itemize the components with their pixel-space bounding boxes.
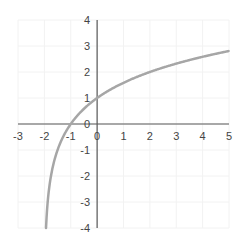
- y-tick-label: 1: [84, 92, 90, 104]
- y-tick-label: 0: [84, 118, 90, 130]
- x-tick-label: 1: [120, 130, 126, 142]
- x-tick-labels: -3-2-1012345: [13, 130, 232, 142]
- x-tick-label: -2: [39, 130, 49, 142]
- y-tick-label: -3: [80, 196, 90, 208]
- y-tick-label: -4: [80, 222, 90, 234]
- x-tick-label: 3: [173, 130, 179, 142]
- x-tick-label: 4: [200, 130, 206, 142]
- x-tick-label: -3: [13, 130, 23, 142]
- y-tick-label: 4: [84, 14, 90, 26]
- x-tick-label: 0: [94, 130, 100, 142]
- x-tick-label: 2: [147, 130, 153, 142]
- y-tick-label: -2: [80, 170, 90, 182]
- x-tick-label: 5: [226, 130, 232, 142]
- function-plot: -3-2-1012345 43210-1-2-3-4: [0, 0, 244, 242]
- y-tick-label: 2: [84, 66, 90, 78]
- y-tick-label: 3: [84, 40, 90, 52]
- x-tick-label: -1: [66, 130, 76, 142]
- y-tick-label: -1: [80, 144, 90, 156]
